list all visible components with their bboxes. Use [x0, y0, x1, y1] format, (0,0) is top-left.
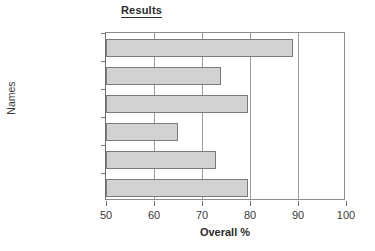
y-tick-fuller	[101, 117, 106, 118]
y-axis-title: Names	[5, 63, 17, 133]
x-tick-80	[250, 201, 251, 206]
bar-fill	[106, 39, 293, 57]
x-tick-50	[106, 201, 107, 206]
bar-george	[106, 95, 248, 113]
bar-hardacre	[106, 67, 221, 85]
bar-jameson	[106, 179, 248, 197]
bar-smithson	[106, 39, 293, 57]
bar-fill	[106, 179, 248, 197]
chart-container: Results Names SmithsonHardacreGeorgeFull…	[0, 0, 375, 251]
y-tick-jameson	[101, 173, 106, 174]
chart-title-text: Results	[121, 4, 162, 18]
y-tick-smithson	[101, 33, 106, 34]
bar-fuller	[106, 123, 178, 141]
bar-fill	[106, 151, 216, 169]
bar-renshaw	[106, 151, 216, 169]
bar-fill	[106, 123, 178, 141]
y-tick-renshaw	[101, 145, 106, 146]
plot-area: SmithsonHardacreGeorgeFullerRenshawJames…	[105, 32, 345, 200]
x-tick-label-50: 50	[86, 209, 126, 221]
bar-series	[106, 33, 344, 199]
bar-fill	[106, 67, 221, 85]
x-axis-title: Overall %	[105, 226, 345, 238]
x-tick-90	[298, 201, 299, 206]
x-tick-label-100: 100	[326, 209, 366, 221]
x-tick-label-70: 70	[182, 209, 222, 221]
x-tick-label-80: 80	[230, 209, 270, 221]
x-tick-100	[346, 201, 347, 206]
x-tick-label-60: 60	[134, 209, 174, 221]
x-tick-label-90: 90	[278, 209, 318, 221]
y-tick-hardacre	[101, 61, 106, 62]
x-tick-70	[202, 201, 203, 206]
y-tick-george	[101, 89, 106, 90]
chart-title: Results	[0, 4, 375, 16]
bar-fill	[106, 95, 248, 113]
x-tick-60	[154, 201, 155, 206]
